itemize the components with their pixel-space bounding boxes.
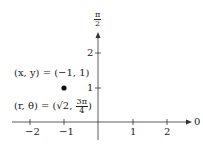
vertical-axis-label: π2: [94, 11, 101, 28]
cartesian-label: (x, y) = (−1, 1): [14, 68, 89, 78]
x-tick-label: −2: [25, 127, 40, 137]
x-tick-label: −1: [59, 127, 74, 137]
y-tick-label: 2: [87, 48, 93, 58]
x-tick-label: 2: [164, 127, 170, 137]
x-tick-label: 1: [130, 127, 136, 137]
polar-label: (r, θ) = (√2, 3π4): [14, 98, 92, 115]
y-tick-label: 1: [87, 83, 93, 93]
polar-axis-label: 0: [194, 117, 200, 127]
plotted-point: [61, 85, 66, 90]
